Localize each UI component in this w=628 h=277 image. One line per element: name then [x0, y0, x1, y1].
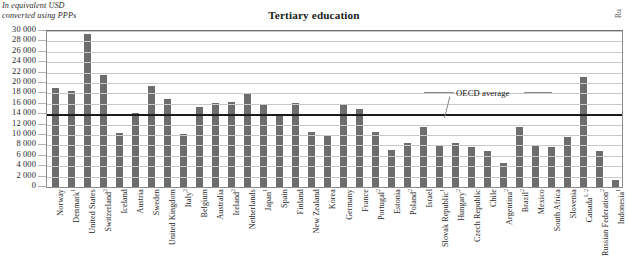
gridline — [47, 73, 622, 74]
y-axis-tick-label: 18 000 — [12, 88, 36, 96]
clipped-edge-label: Ru — [614, 2, 628, 18]
x-axis-category-label: Canada1, 2 — [586, 189, 594, 222]
bar — [516, 127, 523, 187]
x-axis-category-label: United Kingdom — [169, 189, 177, 245]
x-axis-category-label: Denmark1 — [73, 189, 81, 223]
bar — [356, 109, 363, 187]
x-axis-category-label: Germany — [346, 189, 354, 220]
x-axis-category-label: Argentina2 — [506, 189, 514, 225]
x-axis-category-label: Indonesia1 — [618, 189, 626, 224]
gridline — [47, 156, 622, 157]
chart-figure: In equivalent USD converted using PPPs T… — [0, 0, 628, 277]
y-axis-tick-mark — [38, 92, 46, 93]
y-axis-tick-mark — [38, 103, 46, 104]
gridline — [47, 62, 622, 63]
x-axis-category-label: Israel — [426, 189, 434, 208]
x-axis-category-label: New Zealand — [313, 189, 321, 233]
x-axis-category-label: Australia — [217, 189, 225, 220]
y-axis-tick-label: 28 000 — [12, 36, 36, 44]
oecd-average-label: OECD average — [456, 88, 509, 98]
y-axis-tick-label: 20 000 — [12, 78, 36, 86]
x-axis-category-label: Slovak Republic1 — [442, 189, 450, 247]
bar — [164, 99, 171, 187]
x-axis-category-label: Estonia — [394, 189, 402, 214]
bar — [244, 94, 251, 187]
x-axis-category-label: Norway — [57, 189, 65, 216]
chart-title: Tertiary education — [0, 9, 628, 21]
x-axis-labels: NorwayDenmark1United StatesSwitzerland2I… — [46, 189, 623, 277]
x-axis-category-label: Italy2 — [185, 189, 193, 207]
x-axis-category-label: South Africa — [554, 189, 562, 231]
y-axis: 30 00028 00026 00024 00022 00020 00018 0… — [0, 30, 46, 188]
gridline — [47, 177, 622, 178]
x-axis-category-label: Netherlands — [249, 189, 257, 229]
x-axis-category-label: Ireland2 — [233, 189, 241, 215]
y-axis-tick-mark — [38, 82, 46, 83]
x-axis-category-label: Korea — [329, 189, 337, 209]
bar — [180, 134, 187, 187]
y-axis-tick-mark — [38, 40, 46, 41]
y-axis-tick-label: 8 000 — [16, 140, 36, 148]
bar — [68, 91, 75, 187]
x-axis-category-label: Brazil2 — [522, 189, 530, 212]
y-axis-tick-label: 26 000 — [12, 47, 36, 55]
y-axis-tick-mark — [38, 30, 46, 31]
y-axis-tick-label: 0 — [32, 182, 36, 190]
y-axis-tick-mark — [38, 72, 46, 73]
x-axis-category-label: Mexico — [538, 189, 546, 214]
x-axis-category-label: Sweden — [153, 189, 161, 215]
bar — [116, 133, 123, 187]
plot-area — [46, 30, 623, 188]
x-axis-category-label: United States — [89, 189, 97, 234]
x-axis-category-label: Slovenia — [570, 189, 578, 218]
x-axis-category-label: Austria — [137, 189, 145, 214]
y-axis-tick-label: 10 000 — [12, 130, 36, 138]
y-axis-tick-label: 4 000 — [16, 161, 36, 169]
bar — [308, 132, 315, 187]
x-axis-category-label: Russian Federation2 — [602, 189, 610, 256]
x-axis-category-label: Poland2 — [410, 189, 418, 215]
y-axis-tick-mark — [38, 186, 46, 187]
x-axis-category-label: Switzerland2 — [105, 189, 113, 232]
x-axis-category-label: Spain — [281, 189, 289, 208]
x-axis-category-label: Belgium — [201, 189, 209, 218]
bar — [148, 86, 155, 187]
bar-series — [47, 31, 622, 187]
y-axis-tick-label: 12 000 — [12, 120, 36, 128]
y-axis-tick-label: 2 000 — [16, 172, 36, 180]
y-axis-tick-label: 16 000 — [12, 99, 36, 107]
x-axis-category-label: Czech Republic — [474, 189, 482, 242]
y-axis-tick-label: 6 000 — [16, 151, 36, 159]
x-axis-category-label: Portugal2 — [378, 189, 386, 220]
gridline — [47, 83, 622, 84]
y-axis-tick-label: 30 000 — [12, 26, 36, 34]
gridline — [47, 135, 622, 136]
gridline — [47, 104, 622, 105]
bar — [468, 147, 475, 187]
gridline — [47, 31, 622, 32]
gridline — [47, 41, 622, 42]
gridline — [47, 166, 622, 167]
bar — [84, 34, 91, 187]
bar — [564, 137, 571, 187]
x-axis-category-label: Hungary2 — [458, 189, 466, 221]
bar — [196, 107, 203, 187]
bar — [612, 180, 619, 187]
y-axis-tick-mark — [38, 155, 46, 156]
y-axis-tick-mark — [38, 61, 46, 62]
gridline — [47, 145, 622, 146]
bar — [324, 136, 331, 187]
oecd-leader-line-right — [524, 92, 552, 93]
x-axis-category-label: Iceland — [121, 189, 129, 214]
y-axis-tick-mark — [38, 113, 46, 114]
y-axis-tick-mark — [38, 144, 46, 145]
bar — [100, 75, 107, 187]
y-axis-tick-mark — [38, 134, 46, 135]
y-axis-tick-mark — [38, 51, 46, 52]
x-axis-category-label: Chile — [490, 189, 498, 207]
bar — [372, 132, 379, 187]
gridline — [47, 125, 622, 126]
oecd-leader-line-left — [424, 92, 454, 93]
y-axis-tick-label: 22 000 — [12, 68, 36, 76]
gridline — [47, 93, 622, 94]
